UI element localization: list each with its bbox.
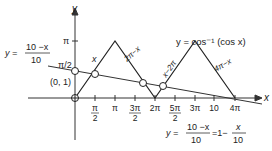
svg-text:x: x xyxy=(235,122,241,132)
intersection-point-1 xyxy=(92,71,99,78)
y-tick-pi-half: π/2 xyxy=(58,60,72,70)
svg-text:2: 2 xyxy=(133,113,138,123)
svg-text:10: 10 xyxy=(209,103,219,113)
intersection-point-3 xyxy=(160,83,167,90)
segment-label-x: x xyxy=(91,54,97,64)
svg-text:10: 10 xyxy=(191,135,201,145)
svg-text:π: π xyxy=(92,103,98,113)
svg-text:y =: y = xyxy=(165,128,178,138)
x-tick-labels: π 2 π 3π 2 2π 5π 2 3π 10 4π xyxy=(91,103,240,123)
line-label-bottom: y = 10 −x 10 =1− x 10 xyxy=(165,122,246,145)
svg-text:4π: 4π xyxy=(230,103,241,113)
segment-label-2pi-minus-x: 2π−x xyxy=(122,44,143,64)
y-tick-pi: π xyxy=(63,36,69,46)
svg-text:10 −x: 10 −x xyxy=(26,42,49,52)
svg-text:2: 2 xyxy=(173,113,178,123)
line-label-left: y = 10 −x 10 xyxy=(4,42,50,65)
svg-text:2π: 2π xyxy=(150,103,161,113)
svg-text:10: 10 xyxy=(233,135,243,145)
intersection-point-2 xyxy=(140,80,147,87)
svg-text:10 −x: 10 −x xyxy=(187,122,210,132)
svg-text:2: 2 xyxy=(93,113,98,123)
svg-text:=1−: =1− xyxy=(212,128,228,138)
x-axis-arrow-icon xyxy=(255,95,262,101)
arccos-cos-curve xyxy=(75,41,235,98)
point-label-0-1: (0, 1) xyxy=(50,77,71,87)
segment-label-4pi-minus-x: 4π−x xyxy=(213,56,234,74)
svg-text:y =: y = xyxy=(4,48,17,58)
axes xyxy=(28,8,262,140)
point-0-1 xyxy=(72,68,79,75)
graph-figure: y x π π/2 π 2 π 3π 2 2π 5π 2 3π 10 4π y … xyxy=(0,0,272,151)
svg-text:3π: 3π xyxy=(190,103,201,113)
curve-title: y = cos⁻¹ (cos x) xyxy=(176,36,246,47)
x-axis-label: x xyxy=(263,92,270,103)
y-axis-label: y xyxy=(71,3,78,14)
svg-text:10: 10 xyxy=(31,55,41,65)
svg-text:π: π xyxy=(112,103,118,113)
svg-text:3π: 3π xyxy=(130,103,141,113)
svg-text:5π: 5π xyxy=(170,103,181,113)
